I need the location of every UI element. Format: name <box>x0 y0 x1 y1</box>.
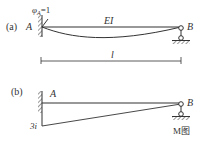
diagram-a: (a) A B φA=1 EI l <box>6 5 193 64</box>
beam-diagram: (a) A B φA=1 EI l (b) A B 3i M图 <box>0 0 204 143</box>
fixed-support-b <box>38 91 42 113</box>
diagram-b: (b) A B 3i M图 <box>11 86 193 136</box>
rotation-label: φA=1 <box>32 5 50 16</box>
stiffness-label: EI <box>103 15 114 26</box>
length-label: l <box>111 49 114 60</box>
moment-diagram-caption: M图 <box>173 126 190 136</box>
moment-diagram-line <box>42 104 181 126</box>
panel-label-a: (a) <box>6 21 17 33</box>
node-label-a-b: A <box>49 88 57 99</box>
node-label-a: A <box>25 21 33 32</box>
deflection-curve <box>42 27 181 38</box>
node-label-b: B <box>187 21 193 32</box>
node-label-b-b: B <box>187 97 193 108</box>
fixed-support-a <box>38 15 42 37</box>
moment-value-label: 3i <box>29 121 38 131</box>
panel-label-b: (b) <box>11 86 23 98</box>
rotation-marker <box>42 19 48 27</box>
